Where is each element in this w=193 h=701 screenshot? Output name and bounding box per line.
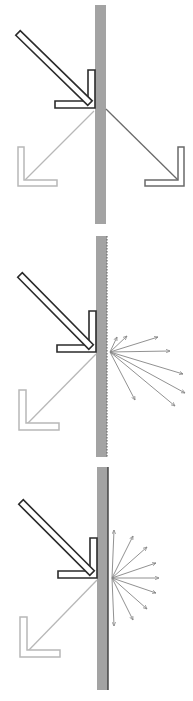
material-slab — [97, 467, 108, 690]
reflected-arrowhead — [20, 617, 60, 657]
scattered-ray — [110, 337, 158, 352]
scattered-ray — [112, 530, 114, 578]
scattered-ray — [112, 547, 147, 578]
scattered-ray — [110, 352, 185, 393]
scattered-ray — [112, 578, 147, 609]
reflected-ray — [27, 354, 96, 424]
panel-diffuse-lambertian-scatter — [19, 467, 159, 690]
reflected-ray — [25, 111, 94, 180]
panel-specular-transmission — [16, 5, 184, 224]
scattered-ray — [110, 352, 183, 374]
scattered-ray — [110, 352, 175, 406]
scattered-ray — [112, 578, 114, 626]
transmitted-ray — [106, 109, 178, 180]
panel-rough-surface-scatter — [18, 236, 185, 457]
reflected-arrowhead — [18, 147, 57, 186]
scattered-ray — [110, 351, 170, 352]
light-interaction-diagram — [0, 0, 193, 701]
incident-light-arrow — [18, 273, 94, 350]
incident-light-arrow — [19, 500, 95, 576]
material-slab — [95, 5, 106, 224]
material-slab — [96, 236, 107, 457]
reflected-arrowhead — [19, 390, 59, 430]
incident-light-arrow — [16, 31, 92, 106]
reflected-ray — [28, 580, 97, 651]
